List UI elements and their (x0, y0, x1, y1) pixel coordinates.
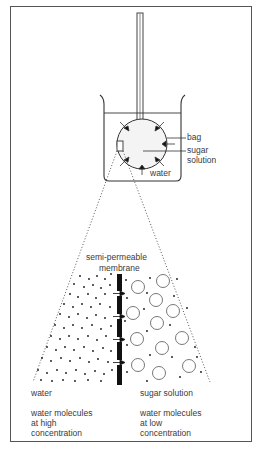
beaker-water-label: water (150, 168, 171, 178)
sugar-molecules (127, 275, 196, 380)
sugar-solution-label-line1: sugar (187, 145, 208, 155)
high-concentration-description: water molecules at high concentration (31, 408, 121, 438)
membrane-label-line2: membrane (99, 263, 140, 273)
low-concentration-description: water molecules at low concentration (140, 408, 230, 438)
water-molecules-left (37, 273, 113, 382)
bag (117, 119, 175, 175)
sugar-solution-side-label: sugar solution (140, 388, 193, 398)
water-side-label: water (31, 388, 52, 398)
osmosis-diagram (0, 0, 260, 450)
desc-left-line1: water molecules (31, 408, 121, 418)
desc-right-line2: at low (140, 418, 230, 428)
semi-permeable-membrane (117, 274, 122, 385)
sugar-solution-label-line2: solution (187, 155, 216, 165)
zoom-region-marker (117, 141, 123, 151)
desc-right-line3: concentration (140, 428, 230, 438)
membrane-label-line1: semi-permeable (86, 252, 147, 262)
capillary-tube (137, 13, 143, 125)
bag-label: bag (187, 132, 201, 142)
desc-right-line1: water molecules (140, 408, 230, 418)
desc-left-line3: concentration (31, 428, 121, 438)
desc-left-line2: at high (31, 418, 121, 428)
